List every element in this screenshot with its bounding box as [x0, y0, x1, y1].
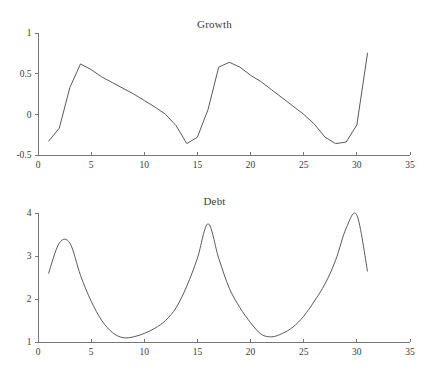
x-tick-label: 25 [299, 347, 309, 357]
y-tick-label: 0 [27, 110, 32, 120]
x-tick-label: 0 [36, 347, 41, 357]
x-tick-label: 0 [36, 160, 41, 170]
x-tick-label: 30 [352, 347, 362, 357]
y-tick-label: 1 [27, 28, 32, 38]
y-tick-label: 0.5 [20, 69, 32, 79]
y-tick-label: 3 [27, 251, 32, 261]
chart-panel-debt: Debt 123405101520253035 [0, 189, 429, 379]
x-tick-label: 20 [246, 160, 256, 170]
y-tick-label: -0.5 [16, 150, 31, 160]
x-tick-label: 10 [140, 347, 150, 357]
chart-svg-debt: 123405101520253035 [0, 189, 429, 379]
x-tick-label: 20 [246, 347, 256, 357]
data-line-growth [49, 53, 368, 143]
chart-svg-growth: -0.500.5105101520253035 [0, 0, 429, 190]
x-tick-label: 35 [405, 160, 415, 170]
x-tick-label: 15 [193, 160, 203, 170]
x-tick-label: 15 [193, 347, 203, 357]
x-tick-label: 10 [140, 160, 150, 170]
x-tick-label: 30 [352, 160, 362, 170]
x-tick-label: 5 [89, 160, 94, 170]
chart-panel-growth: Growth -0.500.5105101520253035 [0, 0, 429, 190]
y-tick-label: 1 [27, 337, 32, 347]
x-tick-label: 35 [405, 347, 415, 357]
data-line-debt [49, 213, 368, 338]
figure-canvas: Growth -0.500.5105101520253035 Debt 1234… [0, 0, 429, 379]
y-tick-label: 4 [27, 208, 32, 218]
y-tick-label: 2 [27, 294, 32, 304]
x-tick-label: 5 [89, 347, 94, 357]
x-tick-label: 25 [299, 160, 309, 170]
